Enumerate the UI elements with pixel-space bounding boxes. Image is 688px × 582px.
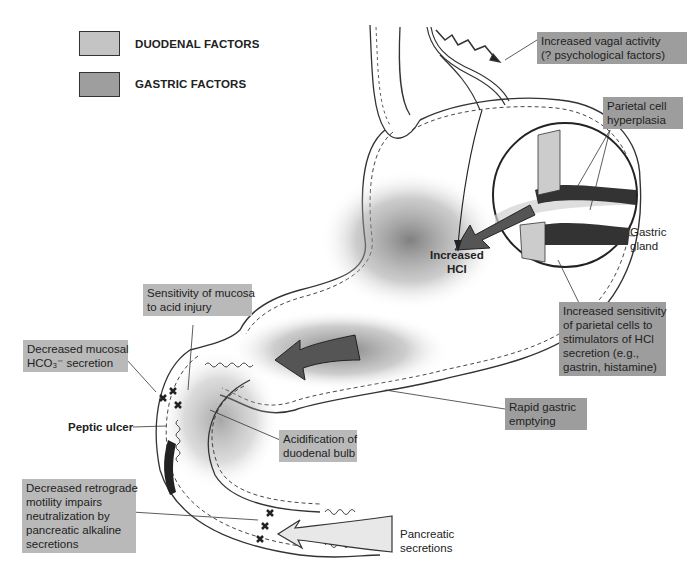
legend-swatch-gastric (79, 72, 120, 97)
label-vagal-activity: Increased vagal activity (? psychologica… (537, 32, 687, 64)
label-line: to acid injury (147, 300, 248, 314)
label-line: duodenal bulb (283, 446, 353, 460)
label-gastric-gland: Gastric gland (630, 225, 666, 253)
esophagus (370, 25, 420, 138)
label-rapid-emptying: Rapid gastric emptying (505, 398, 587, 430)
label-line: HCO₃⁻ secretion (27, 356, 124, 370)
label-line: Decreased retrograde (26, 481, 132, 495)
label-line: Parietal cell (607, 99, 679, 113)
label-line: HCl (430, 262, 484, 276)
label-line: gastrin, histamine) (563, 360, 662, 374)
label-line: neutralization by (26, 509, 132, 523)
label-peptic-ulcer: Peptic ulcer (68, 420, 133, 434)
label-line: secretions (26, 537, 132, 551)
label-line: Increased vagal activity (541, 34, 683, 48)
label-pancreatic-secretions: Pancreatic secretions (400, 527, 454, 555)
legend-swatch-duodenal (79, 31, 120, 56)
label-parietal-sensitivity: Increased sensitivity of parietal cells … (559, 302, 666, 376)
label-line: (? psychological factors) (541, 48, 683, 62)
label-line: Increased sensitivity (563, 304, 662, 318)
label-line: Gastric (630, 225, 666, 239)
label-line: pancreatic alkaline (26, 523, 132, 537)
pancreatic-arrow (278, 516, 392, 552)
label-line: Increased (430, 248, 484, 262)
legend-label-gastric: GASTRIC FACTORS (135, 78, 246, 90)
label-line: Pancreatic (400, 527, 454, 541)
label-line: Sensitivity of mucosa (147, 286, 248, 300)
label-parietal-hyperplasia: Parietal cell hyperplasia (603, 97, 683, 129)
label-acidification: Acidification of duodenal bulb (279, 430, 357, 462)
label-line: motility impairs (26, 495, 132, 509)
label-line: Rapid gastric (509, 400, 583, 414)
label-line: Decreased mucosal (27, 342, 124, 356)
label-line: emptying (509, 414, 583, 428)
label-decreased-hco3: Decreased mucosal HCO₃⁻ secretion (23, 340, 128, 372)
label-line: secretions (400, 541, 454, 555)
label-increased-hcl: Increased HCl (430, 248, 484, 276)
legend-label-duodenal: DUODENAL FACTORS (135, 38, 260, 50)
label-retrograde-motility: Decreased retrograde motility impairs ne… (22, 479, 136, 553)
x-marks-retrograde (257, 510, 273, 542)
vagus-nerve (427, 27, 509, 110)
label-line: Acidification of (283, 432, 353, 446)
label-line: of parietal cells to (563, 318, 662, 332)
label-line: stimulators of HCl (563, 332, 662, 346)
label-line: hyperplasia (607, 113, 679, 127)
label-line: secretion (e.g., (563, 346, 662, 360)
label-mucosa-sensitivity: Sensitivity of mucosa to acid injury (143, 284, 252, 316)
label-line: gland (630, 239, 666, 253)
